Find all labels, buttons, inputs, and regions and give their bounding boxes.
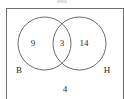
region-value-h-only: 14	[76, 38, 92, 48]
set-label-b: B	[13, 65, 25, 75]
region-value-b-only: 9	[26, 38, 40, 48]
region-value-intersection: 3	[55, 38, 69, 48]
venn-diagram-figure: 9 3 14 4 B H	[0, 0, 124, 99]
region-value-outside: 4	[59, 84, 71, 94]
set-label-h: H	[101, 65, 113, 75]
